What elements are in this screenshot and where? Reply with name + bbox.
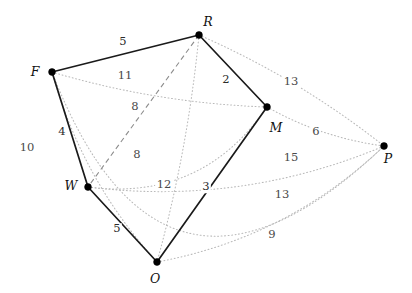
vertex-dot-o — [154, 259, 161, 266]
edge-f-m — [52, 72, 267, 107]
vertex-label-f: F — [31, 66, 40, 79]
edge-weight-o-p: 9 — [267, 229, 277, 241]
edge-m-o — [157, 107, 267, 262]
edge-weight-f-p: 10 — [18, 142, 36, 154]
vertex-dot-w — [85, 184, 92, 191]
edge-weight-f-m: 11 — [116, 70, 134, 82]
edge-r-p — [199, 35, 384, 146]
edge-m-p — [267, 107, 384, 146]
edge-weight-r-w: 8 — [130, 101, 140, 113]
edge-weight-f-o: 8 — [132, 149, 142, 161]
vertex-label-p: P — [384, 153, 392, 166]
edge-weight-o-w: 5 — [112, 223, 122, 235]
edge-r-w — [88, 35, 199, 187]
vertex-dots-group — [49, 32, 388, 266]
edge-r-m — [199, 35, 267, 107]
vertex-label-w: W — [65, 180, 78, 193]
edge-o-p — [157, 146, 384, 262]
edge-weight-w-p: 13 — [273, 189, 291, 201]
edge-f-p — [52, 72, 384, 236]
graph-figure: FRMPOW 523548118101312615139 — [0, 0, 412, 293]
graph-canvas — [0, 0, 412, 293]
edge-weight-f-r: 5 — [118, 36, 128, 48]
edge-weight-w-f: 4 — [57, 126, 67, 138]
vertex-dot-r — [196, 32, 203, 39]
edge-r-o — [157, 35, 199, 262]
vertex-label-m: M — [270, 122, 283, 135]
dashed-edges-group — [88, 35, 199, 187]
edge-weight-m-o: 3 — [201, 181, 211, 193]
edge-weight-m-w: 15 — [282, 152, 300, 164]
vertex-label-r: R — [203, 16, 212, 29]
vertex-dot-m — [264, 104, 271, 111]
edge-weight-r-m: 2 — [221, 74, 231, 86]
edge-o-w — [88, 187, 157, 262]
edge-weight-m-p: 6 — [311, 126, 321, 138]
solid-edges-group — [52, 35, 267, 262]
vertex-label-o: O — [150, 273, 160, 286]
edge-weight-r-o: 12 — [155, 179, 173, 191]
vertex-dot-p — [381, 143, 388, 150]
dotted-edges-group — [52, 35, 384, 262]
vertex-dot-f — [49, 69, 56, 76]
edge-weight-r-p: 13 — [282, 76, 300, 88]
edge-f-o — [52, 72, 157, 262]
